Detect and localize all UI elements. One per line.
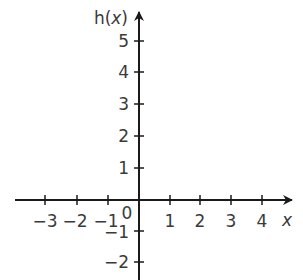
chart-canvas: −3 −2 −1 1 2 3 4 5 4 3 2 1 −1 −2 0 x h(x… [0, 0, 303, 280]
x-tick-label: −3 [32, 211, 57, 231]
y-tick-label: 3 [118, 94, 129, 114]
x-tick-label: 1 [165, 211, 176, 231]
x-tick-label: −2 [62, 211, 87, 231]
x-axis-label: x [281, 210, 293, 230]
x-tick-label: 3 [226, 211, 237, 231]
y-tick-label: 4 [118, 62, 129, 82]
y-axis-label: h(x) [94, 8, 128, 28]
y-tick-label: −2 [104, 252, 129, 272]
y-tick-label: 2 [118, 126, 129, 146]
y-tick-label: 1 [118, 158, 129, 178]
x-tick-label: 2 [195, 211, 206, 231]
origin-label: 0 [122, 203, 133, 223]
y-tick-label: −1 [104, 222, 129, 242]
y-tick-label: 5 [118, 31, 129, 51]
x-tick-label: 4 [257, 211, 268, 231]
